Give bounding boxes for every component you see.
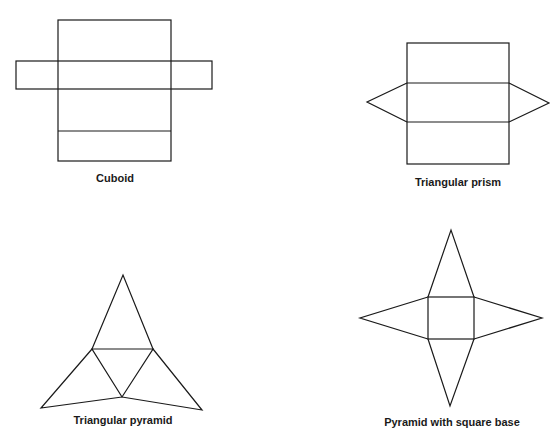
triangular-pyramid-net — [41, 275, 202, 410]
square-pyramid-net — [360, 230, 542, 406]
triangular-prism-net — [367, 43, 549, 164]
nets-diagram: Cuboid Triangular prism Triangular pyram… — [0, 0, 559, 436]
cuboid-net — [16, 20, 212, 161]
triangular-prism-label: Triangular prism — [415, 176, 501, 188]
square-pyramid-label: Pyramid with square base — [384, 416, 520, 428]
triangular-pyramid-label: Triangular pyramid — [73, 414, 172, 426]
cuboid-label: Cuboid — [96, 172, 134, 184]
nets-drawing — [0, 0, 559, 436]
